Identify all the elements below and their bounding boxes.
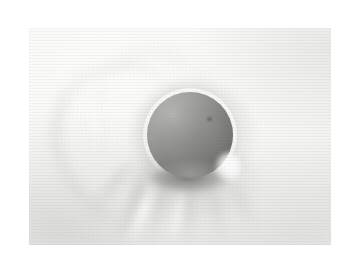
- photograph: [29, 28, 331, 245]
- ball-surface-speck: [207, 117, 212, 121]
- image-canvas: [0, 0, 359, 261]
- specular-highlight: [215, 152, 241, 182]
